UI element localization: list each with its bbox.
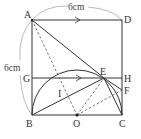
dashed-ao — [32, 20, 77, 115]
label-e: E — [100, 66, 106, 77]
label-c: C — [119, 118, 126, 129]
label-o: O — [73, 118, 80, 129]
label-b: B — [26, 118, 33, 129]
label-d: D — [124, 14, 131, 25]
left-measure-label: 6cm — [4, 63, 21, 73]
label-h: H — [124, 73, 131, 84]
label-i: I — [58, 88, 61, 99]
square-abcd — [32, 20, 122, 115]
line-ae — [32, 20, 104, 78]
left-measure-arc — [20, 20, 32, 115]
label-f: F — [124, 85, 130, 96]
point-o — [75, 113, 78, 116]
label-a: A — [24, 9, 32, 20]
dashed-of — [77, 90, 122, 115]
top-measure-label: 6cm — [68, 2, 85, 12]
dashed-oe — [77, 78, 104, 115]
label-g: G — [23, 73, 30, 84]
geometry-diagram: 6cm 6cm A D G H E F I B O C — [0, 0, 141, 139]
line-be — [32, 78, 104, 115]
